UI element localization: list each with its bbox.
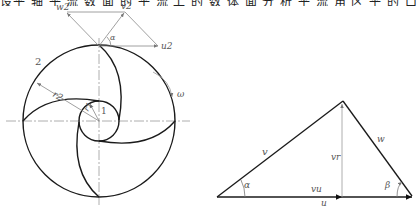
v2-label: v2 [121, 1, 132, 11]
w2-label: w2 [56, 2, 70, 12]
outlet-alpha-label: α [110, 33, 116, 42]
vr-label: vr [331, 152, 341, 162]
u-label: u [321, 198, 327, 208]
outer-label: 2 [35, 56, 41, 67]
inner-label: 1 [101, 106, 107, 116]
v-label: v [262, 146, 268, 157]
alpha-label: α [244, 180, 250, 190]
r2-label: r2 [51, 89, 65, 103]
r2-arrow [37, 83, 99, 121]
center-lines [6, 38, 190, 205]
u2-label: u2 [161, 41, 173, 51]
vu-label: vu [311, 184, 322, 194]
w-label: w [377, 134, 385, 144]
impeller-diagram: r2 r1 2 1 ω w2 v2 u2 α v w vr vu u α β [0, 0, 418, 210]
beta-label: β [384, 180, 390, 190]
omega-label: ω [177, 89, 185, 99]
